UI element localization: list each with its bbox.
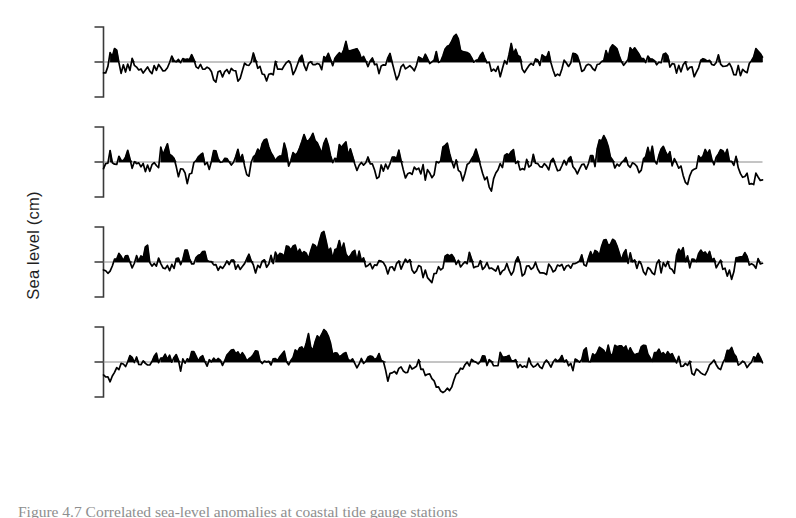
y-axis-title: Sea level (cm) (24, 161, 43, 331)
panel-san-francisco (95, 227, 763, 297)
panel-sitka (95, 27, 763, 97)
plot-canvas (0, 0, 796, 518)
y-axis-spine-san-diego (95, 327, 104, 397)
y-axis-spine-san-francisco (95, 227, 104, 297)
series-fill-sitka (110, 34, 762, 62)
panel-neah-bay (95, 127, 763, 197)
y-axis-spine-neah-bay (95, 127, 104, 197)
y-axis-spine-sitka (95, 27, 104, 97)
figure-caption: Figure 4.7 Correlated sea-level anomalie… (18, 503, 458, 518)
panel-san-diego (95, 327, 763, 397)
sea-level-figure: Sea level (cm) Figure 4.7 Correlated sea… (0, 0, 796, 518)
series-fill-san-diego (128, 330, 763, 362)
series-fill-san-francisco (115, 232, 761, 263)
